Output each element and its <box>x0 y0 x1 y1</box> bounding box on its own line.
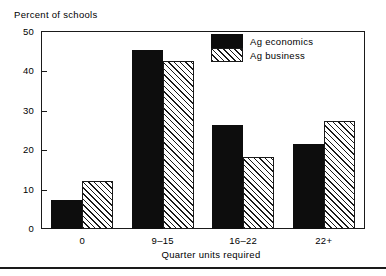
bars-layer <box>42 32 364 229</box>
y-tick-label: 0 <box>0 224 34 234</box>
x-tick-label: 16–22 <box>229 236 257 246</box>
bar-ag-economics <box>212 125 243 229</box>
bar-ag-business <box>82 181 113 229</box>
footer-rule <box>0 267 386 269</box>
y-tick-label: 10 <box>0 185 34 195</box>
x-axis-title: Quarter units required <box>0 249 386 260</box>
bar-ag-business <box>243 157 274 229</box>
legend-item-ag-business: Ag business <box>211 48 313 62</box>
y-tick-label: 20 <box>0 145 34 155</box>
bar-ag-economics <box>293 144 324 229</box>
y-tick-label: 50 <box>0 27 34 37</box>
legend-label-ag-economics: Ag economics <box>250 36 313 47</box>
bar-ag-economics <box>132 50 163 229</box>
x-tick-label: 22+ <box>315 236 332 246</box>
y-tick-label: 30 <box>0 106 34 116</box>
bar-ag-business <box>324 121 355 229</box>
bar-ag-economics <box>51 200 82 229</box>
legend-label-ag-business: Ag business <box>250 50 305 61</box>
legend-swatch-hatched-icon <box>211 48 243 62</box>
legend: Ag economics Ag business <box>211 34 313 62</box>
legend-item-ag-economics: Ag economics <box>211 34 313 48</box>
x-tick-label: 9–15 <box>152 236 174 246</box>
bar-chart-figure: Percent of schools 01020304050 09–1516–2… <box>0 0 386 276</box>
y-axis-title: Percent of schools <box>14 9 98 20</box>
x-axis-title-text: Quarter units required <box>161 249 260 260</box>
legend-swatch-solid-icon <box>211 34 243 48</box>
y-tick-label: 40 <box>0 66 34 76</box>
bar-ag-business <box>163 61 194 229</box>
x-tick-label: 0 <box>79 236 85 246</box>
